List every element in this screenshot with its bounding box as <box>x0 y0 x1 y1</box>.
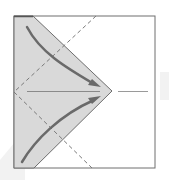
origami-diagram <box>0 0 169 180</box>
watermark-shape-right <box>160 72 169 100</box>
